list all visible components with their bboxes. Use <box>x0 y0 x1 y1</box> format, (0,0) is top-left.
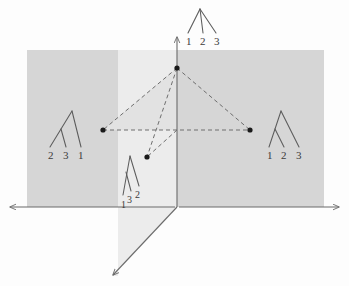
right-tree-leaf-label-3: 3 <box>296 150 302 161</box>
left-tree-leaf-label-2: 2 <box>48 150 54 161</box>
figure-canvas: 123231123132 <box>0 0 349 286</box>
top-tree-leaf-label-2: 2 <box>200 36 206 47</box>
top-tree <box>188 9 216 33</box>
apex-point <box>174 65 179 70</box>
right-tree-leaf-label-2: 2 <box>281 150 287 161</box>
top-tree-leaf-label-3: 3 <box>214 36 220 47</box>
right-tree-leaf-label-1: 1 <box>267 150 273 161</box>
left-point <box>100 127 105 132</box>
top-tree-edge <box>188 9 200 33</box>
left-tree-leaf-label-3: 3 <box>63 150 69 161</box>
bottom-tree-leaf-label-1: 1 <box>121 199 126 210</box>
bottom-tree-leaf-label-2: 2 <box>135 189 140 200</box>
top-tree-leaf-label-1: 1 <box>186 36 192 47</box>
diagram-svg <box>0 0 349 286</box>
lower-point <box>144 154 149 159</box>
left-tree-leaf-label-1: 1 <box>78 150 84 161</box>
bottom-tree-leaf-label-3: 3 <box>127 194 132 205</box>
right-point <box>247 127 252 132</box>
